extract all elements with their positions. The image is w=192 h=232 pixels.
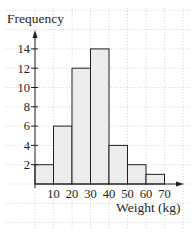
y-tick-label: 6 — [24, 119, 30, 133]
y-tick-label: 12 — [18, 62, 31, 76]
y-tick-label: 14 — [18, 42, 31, 56]
y-axis-label: Frequency — [7, 11, 64, 26]
histogram-bar-0-10 — [35, 165, 54, 184]
y-tick-label: 2 — [24, 158, 30, 172]
x-ticks: 10203040506070 — [47, 187, 171, 201]
x-tick-label: 70 — [158, 187, 171, 201]
y-tick-label: 8 — [24, 100, 30, 114]
histogram-chart: 2468101214 10203040506070 Frequency Weig… — [0, 0, 192, 232]
y-axis-arrow-icon — [33, 30, 38, 38]
x-tick-label: 50 — [121, 187, 134, 201]
x-tick-label: 30 — [84, 187, 97, 201]
histogram-bar-40-50 — [109, 145, 128, 184]
histogram-bar-10-20 — [54, 126, 73, 184]
histogram-bar-30-40 — [91, 49, 110, 184]
histogram-bar-20-30 — [72, 68, 91, 184]
x-tick-label: 60 — [140, 187, 153, 201]
y-tick-label: 10 — [18, 81, 31, 95]
x-tick-label: 10 — [47, 187, 60, 201]
x-tick-label: 20 — [66, 187, 79, 201]
x-tick-label: 40 — [103, 187, 116, 201]
x-axis-label: Weight (kg) — [116, 200, 181, 215]
histogram-bars — [35, 49, 165, 184]
histogram-bar-60-70 — [146, 174, 165, 184]
y-tick-label: 4 — [24, 139, 31, 153]
histogram-bar-50-60 — [128, 165, 147, 184]
